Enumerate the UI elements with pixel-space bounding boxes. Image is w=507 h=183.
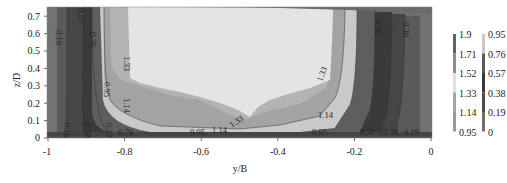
contour-label: 0.57 bbox=[76, 8, 86, 23]
contour-label: 0.95 bbox=[102, 82, 112, 97]
x-tick-label: -0.8 bbox=[117, 146, 133, 157]
contour-label: 1.33 bbox=[122, 56, 132, 71]
colorbar-tick: 0.38 bbox=[488, 88, 506, 99]
contour-label: 0.95 bbox=[312, 127, 327, 137]
contour-label: 1.14 bbox=[318, 110, 334, 120]
x-tick-label: 0 bbox=[429, 146, 434, 157]
colorbar-tick: 0.57 bbox=[488, 68, 506, 79]
x-tick-label: -0.4 bbox=[270, 146, 286, 157]
x-axis: -1 -0.8 -0.6 -0.4 -0.2 0 y/B bbox=[43, 138, 434, 174]
y-tick-label: 0.6 bbox=[28, 28, 41, 39]
y-tick-label: 0.1 bbox=[28, 115, 41, 126]
colorbar-tick: 1.33 bbox=[459, 88, 477, 99]
y-tick-label: 0.7 bbox=[28, 11, 41, 22]
x-axis-label: y/B bbox=[233, 163, 248, 174]
contour-label: 0.38 bbox=[401, 22, 411, 37]
colorbar-lower: 0.95 0.76 0.57 0.38 0.19 0 bbox=[482, 29, 506, 138]
contour-label: 0.19 bbox=[54, 30, 64, 45]
plot-area: 0.19 0.57 0.76 1.33 0.95 1.14 0.19 0.38 … bbox=[47, 7, 432, 138]
contour-label: 0.38 bbox=[383, 127, 398, 137]
contour-chart: 0.19 0.57 0.76 1.33 0.95 1.14 0.19 0.38 … bbox=[0, 0, 507, 183]
colorbar-upper: 1.9 1.71 1.52 1.33 1.14 0.95 bbox=[453, 29, 477, 138]
contour-label: 0.19 bbox=[404, 127, 419, 137]
colorbar-tick: 0.95 bbox=[459, 127, 477, 138]
y-tick-label: 0 bbox=[35, 132, 40, 143]
x-tick-label: -0.6 bbox=[193, 146, 209, 157]
contour-label: 0.95 bbox=[190, 127, 205, 137]
contour-label: 1.14 bbox=[212, 125, 228, 135]
y-axis-label: z/D bbox=[11, 73, 22, 87]
contour-label: 0.57 bbox=[360, 127, 375, 137]
colorbar-tick: 1.14 bbox=[459, 107, 477, 118]
y-tick-label: 0.2 bbox=[28, 98, 41, 109]
colorbar-tick: 1.52 bbox=[459, 68, 477, 79]
contour-label: 0.57 bbox=[104, 123, 114, 138]
y-tick-label: 0.3 bbox=[28, 80, 41, 91]
contour-label: 0.76 bbox=[118, 127, 133, 137]
colorbar-tick: 0 bbox=[488, 127, 493, 138]
contour-label: 0.76 bbox=[373, 20, 383, 35]
contour-label: 0.38 bbox=[83, 123, 93, 138]
colorbar-tick: 0.95 bbox=[488, 29, 506, 40]
y-tick-label: 0.4 bbox=[28, 63, 41, 74]
colorbar-tick: 1.71 bbox=[459, 49, 477, 60]
contour-label: 0.19 bbox=[62, 123, 72, 138]
contour-label: 1.14 bbox=[122, 98, 132, 114]
colorbar-tick: 0.76 bbox=[488, 49, 506, 60]
colorbar-tick: 0.19 bbox=[488, 107, 506, 118]
y-axis: 0 0.1 0.2 0.3 0.4 0.5 0.6 0.7 z/D bbox=[11, 11, 47, 144]
x-tick-label: -1 bbox=[43, 146, 51, 157]
x-tick-label: -0.2 bbox=[346, 146, 362, 157]
contour-label: 0.76 bbox=[88, 32, 98, 47]
y-tick-label: 0.5 bbox=[28, 45, 41, 56]
colorbar-tick: 1.9 bbox=[459, 29, 472, 40]
